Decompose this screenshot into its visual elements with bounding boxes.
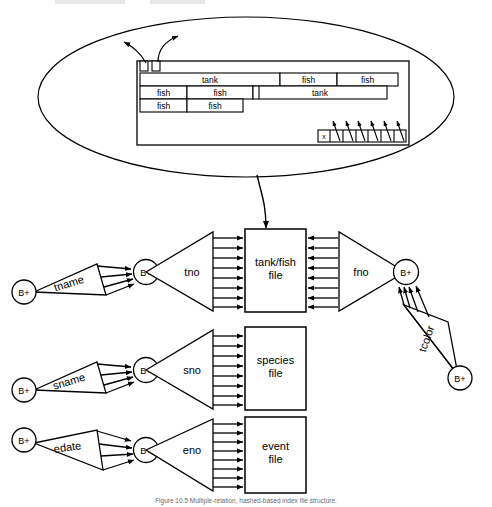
detail-row-1: tank fish fish — [140, 73, 398, 86]
detail-cell-label: tank — [312, 88, 329, 98]
tno-bucket-arrows — [213, 238, 243, 307]
tcolor-triangle: tcolor — [404, 305, 458, 375]
bplus-node-label: B+ — [18, 436, 29, 446]
fno-bucket-arrows — [308, 238, 338, 307]
slot-pointer-1 — [140, 61, 148, 71]
detail-cell-label: fish — [157, 101, 171, 111]
file-label-line2: file — [268, 367, 282, 379]
sno-bucket-arrows — [213, 336, 243, 405]
edate-triangle: edate — [34, 430, 103, 470]
tno-triangle: tno — [146, 232, 213, 311]
sno-label: sno — [183, 364, 201, 376]
detail-row-3: fish fish — [140, 99, 243, 112]
callout-arrow-right — [158, 36, 178, 62]
bplus-node-label: B+ — [454, 374, 465, 384]
sno-triangle: sno — [146, 330, 213, 409]
bplus-node-tcolor-root: B+ — [448, 366, 472, 390]
callout-arrow-left — [124, 42, 146, 63]
bplus-node-label: B+ — [18, 288, 29, 298]
bplus-node-fno: B+ — [394, 260, 419, 285]
detail-cell-label: fish — [213, 88, 227, 98]
page-header-fragment — [55, 0, 205, 4]
tank-fish-file-box: tank/fish file — [245, 229, 306, 312]
detail-block: tank fish fish fish fish tank fish fish — [124, 36, 409, 145]
figure-caption-text: Figure 10.5 Multiple-relation, hashed-ba… — [155, 497, 337, 505]
file-label-line1: species — [257, 354, 295, 366]
detail-cell-label: fish — [361, 75, 375, 85]
file-label-line1: tank/fish — [255, 256, 296, 268]
bplus-node-sname-root: B+ — [12, 378, 36, 402]
file-label-line1: event — [262, 440, 289, 452]
tname-triangle: tname — [34, 264, 106, 295]
slot-directory-x-label: x — [322, 133, 326, 140]
bplus-node-label: B+ — [18, 386, 29, 396]
figure-canvas: tank fish fish fish fish tank fish fish — [0, 0, 492, 507]
bplus-node-edate-root: B+ — [12, 428, 36, 452]
eno-bucket-arrows — [213, 424, 243, 487]
tno-label: tno — [184, 266, 199, 278]
file-label-line2: file — [268, 453, 282, 465]
detail-cell-label: tank — [202, 75, 219, 85]
tname-root-node: B+ — [12, 280, 36, 304]
eno-triangle: eno — [146, 419, 213, 491]
figure-caption: Figure 10.5 Multiple-relation, hashed-ba… — [155, 497, 337, 505]
detail-cell-label: fish — [157, 88, 171, 98]
slot-pointer-2 — [152, 61, 160, 71]
file-label-line2: file — [268, 269, 282, 281]
event-file-box: event file — [245, 417, 306, 493]
detail-row-2: fish fish tank — [140, 86, 387, 99]
eno-label: eno — [183, 444, 201, 456]
fno-label: fno — [353, 266, 368, 278]
bplus-node-label: B+ — [400, 268, 411, 278]
callout-leader-arrow — [257, 175, 266, 228]
detail-cell-label: fish — [208, 101, 222, 111]
species-file-box: species file — [245, 327, 306, 410]
detail-cell-label: fish — [302, 75, 316, 85]
sname-triangle: sname — [34, 362, 106, 393]
diagram-svg: tank fish fish fish fish tank fish fish — [0, 0, 492, 507]
